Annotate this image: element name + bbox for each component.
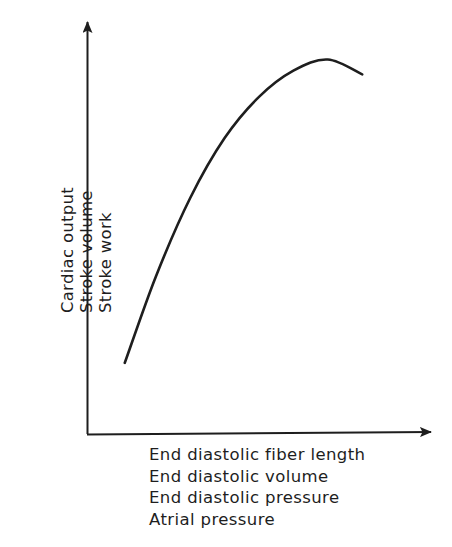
y-axis-label-line-3: Stroke work: [96, 187, 115, 313]
x-axis-label-line-1: End diastolic fiber length: [149, 444, 365, 466]
y-axis-label-line-1: Cardiac output: [58, 187, 77, 313]
frank-starling-curve: [125, 59, 362, 362]
x-axis-label-line-2: End diastolic volume: [149, 466, 365, 488]
y-axis-label: Cardiac output Stroke volume Stroke work: [58, 187, 115, 313]
x-axis-label: End diastolic fiber length End diastolic…: [149, 444, 365, 530]
x-axis: [87, 432, 431, 435]
x-axis-label-line-3: End diastolic pressure: [149, 487, 365, 509]
y-axis-label-line-2: Stroke volume: [77, 187, 96, 313]
x-axis-label-line-4: Atrial pressure: [149, 509, 365, 531]
